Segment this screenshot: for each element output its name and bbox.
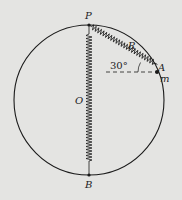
label-R: R	[127, 40, 136, 51]
circle	[14, 25, 164, 175]
label-angle: 30°	[110, 60, 128, 71]
point-P	[87, 23, 90, 26]
label-B: B	[84, 179, 92, 190]
angle-arc	[138, 63, 141, 73]
circle-spring-diagram: P O B R A m 30°	[0, 0, 182, 200]
label-m: m	[160, 73, 169, 84]
vertical-spring	[86, 25, 92, 175]
label-O: O	[75, 95, 83, 106]
point-B	[87, 173, 90, 176]
label-A: A	[157, 62, 165, 73]
label-P: P	[84, 10, 92, 21]
